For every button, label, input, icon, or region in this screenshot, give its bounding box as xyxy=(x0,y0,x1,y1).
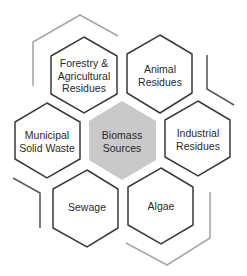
label-sewage: Sewage xyxy=(68,201,106,214)
label-animal-line1: Animal xyxy=(138,63,182,76)
label-animal-line2: Residues xyxy=(138,75,182,88)
label-forestry-line1: Forestry & xyxy=(58,57,111,70)
label-municipal-line2: Solid Waste xyxy=(19,141,75,154)
decor-outline-bottom-left xyxy=(13,178,40,228)
label-industrial: Industrial Residues xyxy=(176,127,220,152)
label-algae-line1: Algae xyxy=(148,200,175,213)
label-sewage-line1: Sewage xyxy=(68,201,106,214)
label-center-line2: Sources xyxy=(102,141,142,154)
label-municipal: Municipal Solid Waste xyxy=(19,129,75,154)
label-algae: Algae xyxy=(148,200,175,213)
label-center-line1: Biomass xyxy=(102,129,142,142)
label-animal: Animal Residues xyxy=(138,63,182,88)
decor-outline-right xyxy=(207,55,234,105)
label-forestry-line2: Agricultural xyxy=(58,70,111,83)
label-forestry-line3: Residues xyxy=(58,82,111,95)
label-center: Biomass Sources xyxy=(102,129,142,154)
label-forestry: Forestry & Agricultural Residues xyxy=(58,57,111,95)
label-industrial-line1: Industrial xyxy=(176,127,220,140)
label-municipal-line1: Municipal xyxy=(19,129,75,142)
label-industrial-line2: Residues xyxy=(176,139,220,152)
